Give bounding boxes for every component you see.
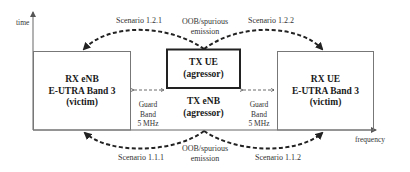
scenario-1-1-2-label: Scenario 1.1.2 — [255, 153, 301, 163]
time-axis-label: time — [16, 18, 29, 28]
emission-top-line2: emission — [175, 27, 235, 37]
guard-band-right-line2: Band — [242, 110, 276, 120]
frequency-axis-label: frequency — [355, 135, 385, 145]
rx-enb-line2: E-UTRA Band 3 — [33, 86, 131, 98]
guard-band-left-line3: 5 MHz — [131, 119, 165, 129]
rx-enb-label: RX eNB E-UTRA Band 3 (victim) — [33, 74, 131, 109]
guard-band-left-line1: Guard — [131, 100, 165, 110]
guard-band-left-label: Guard Band 5 MHz — [131, 100, 165, 129]
emission-bottom-label: OOB/spurious emission — [175, 144, 235, 164]
tx-enb-line1: TX eNB — [167, 96, 240, 108]
emission-top-label: OOB/spurious emission — [175, 17, 235, 37]
tx-ue-line2: (agressor) — [167, 69, 240, 81]
guard-band-right-line1: Guard — [242, 100, 276, 110]
emission-bottom-line1: OOB/spurious — [175, 144, 235, 154]
emission-top-line1: OOB/spurious — [175, 17, 235, 27]
tx-ue-line1: TX UE — [167, 57, 240, 69]
tx-enb-line2: (agressor) — [167, 108, 240, 120]
guard-band-right-line3: 5 MHz — [242, 119, 276, 129]
emission-bottom-line2: emission — [175, 154, 235, 164]
scenario-1-2-1-label: Scenario 1.2.1 — [116, 16, 162, 26]
rx-ue-line3: (victim) — [277, 97, 374, 109]
guard-band-right-label: Guard Band 5 MHz — [242, 100, 276, 129]
rx-ue-line2: E-UTRA Band 3 — [277, 86, 374, 98]
rx-enb-line3: (victim) — [33, 97, 131, 109]
guard-band-left-line2: Band — [131, 110, 165, 120]
tx-enb-label: TX eNB (agressor) — [167, 96, 240, 119]
rx-ue-label: RX UE E-UTRA Band 3 (victim) — [277, 74, 374, 109]
rx-enb-line1: RX eNB — [33, 74, 131, 86]
scenario-1-1-1-label: Scenario 1.1.1 — [118, 153, 164, 163]
rx-ue-line1: RX UE — [277, 74, 374, 86]
tx-ue-label: TX UE (agressor) — [167, 57, 240, 80]
scenario-1-2-2-label: Scenario 1.2.2 — [248, 16, 294, 26]
